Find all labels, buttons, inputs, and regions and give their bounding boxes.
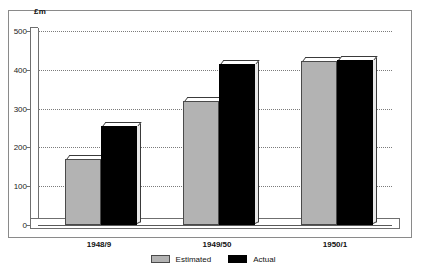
y-axis-tick-mark: [26, 147, 31, 148]
y-axis-tick-label: 500: [14, 27, 27, 36]
legend-label: Estimated: [176, 255, 212, 264]
bar-actual-1949-50: [219, 64, 255, 225]
bar-estimated-1950-1: [301, 61, 337, 225]
bar-actual-1950-1: [337, 60, 373, 225]
bar-front-face: [101, 126, 137, 225]
y-axis-tick-mark: [26, 186, 31, 187]
bar-front-face: [219, 64, 255, 225]
bar-front-face: [65, 159, 101, 225]
y-axis-tick-mark: [26, 70, 31, 71]
axis-baseline: [38, 225, 392, 226]
bar-front-face: [301, 61, 337, 225]
x-axis-category-label: 1948/9: [87, 240, 111, 249]
y-axis-tick-labels: 0100200300400500: [0, 31, 27, 225]
y-axis-tick-label: 400: [14, 65, 27, 74]
bar-front-face: [337, 60, 373, 225]
y-axis-tick-label: 300: [14, 104, 27, 113]
bar-side-face: [255, 61, 259, 224]
bar-chart-figure: £m 0100200300400500 1948/91949/501950/1 …: [0, 0, 426, 274]
bar-side-face: [373, 57, 377, 224]
bar-estimated-1948-9: [65, 159, 101, 225]
y-axis-tick-label: 200: [14, 143, 27, 152]
y-axis-tick-mark: [26, 109, 31, 110]
gridline: [38, 31, 392, 32]
x-axis-category-labels: 1948/91949/501950/1: [38, 240, 392, 252]
y-axis-tick-mark: [26, 31, 31, 32]
y-axis-tick-mark: [26, 225, 31, 226]
plot-area: [38, 31, 392, 225]
bar-actual-1948-9: [101, 126, 137, 225]
legend-swatch-estimated: [151, 255, 170, 263]
y-axis-tick-label: 100: [14, 182, 27, 191]
bar-front-face: [183, 101, 219, 225]
y-axis-unit-label: £m: [34, 7, 46, 16]
y-axis-spine: [30, 27, 38, 229]
x-axis-category-label: 1949/50: [203, 240, 232, 249]
x-axis-category-label: 1950/1: [323, 240, 347, 249]
bar-estimated-1949-50: [183, 101, 219, 225]
legend-label: Actual: [253, 255, 275, 264]
chart-legend: EstimatedActual: [0, 252, 426, 266]
legend-item-actual[interactable]: Actual: [228, 255, 275, 264]
bar-side-face: [137, 123, 141, 224]
legend-item-estimated[interactable]: Estimated: [151, 255, 212, 264]
legend-swatch-actual: [228, 255, 247, 263]
